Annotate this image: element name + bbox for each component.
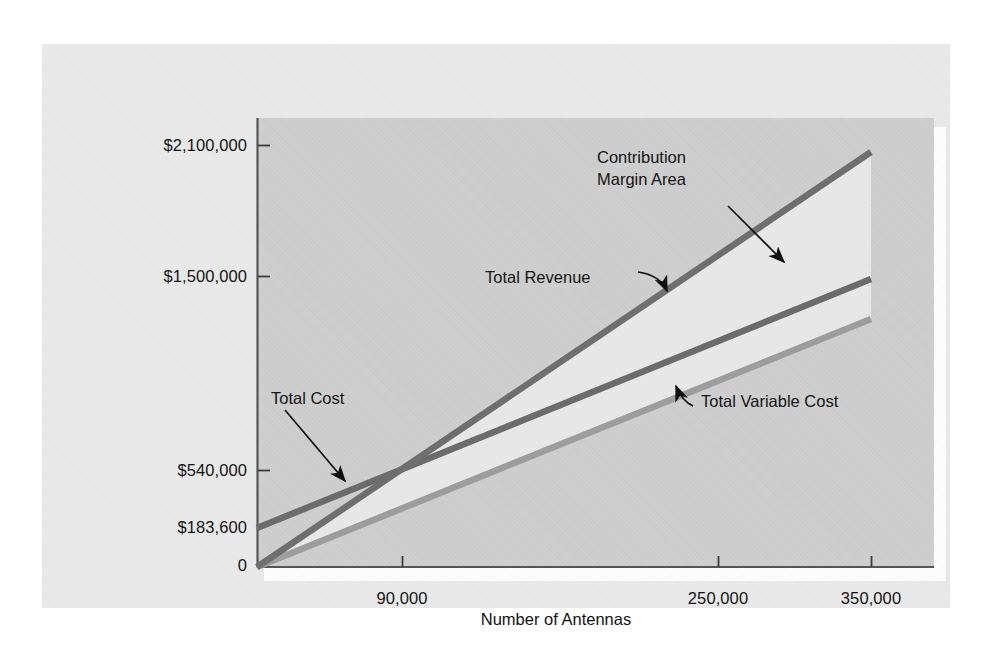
x-tick-label-250000: 250,000	[658, 589, 778, 608]
y-tick-label-183600: $183,600	[97, 518, 247, 537]
annotation-total-cost: Total Cost	[271, 388, 344, 410]
annotation-total-variable-cost: Total Variable Cost	[701, 391, 838, 413]
y-tick-label-2100000: $2,100,000	[97, 136, 247, 155]
x-tick-label-90000: 90,000	[342, 589, 462, 608]
x-tick-label-350000: 350,000	[811, 589, 931, 608]
annotation-contribution-margin-area-line2: Margin Area	[597, 169, 686, 191]
x-axis-title: Number of Antennas	[481, 610, 631, 628]
arrow-total-cost	[285, 410, 345, 481]
arrow-total-revenue	[638, 272, 667, 291]
figure-card: $2,100,000 $1,500,000 $540,000 $183,600 …	[42, 44, 950, 608]
y-tick-label-540000: $540,000	[97, 461, 247, 480]
y-tick-label-0: 0	[97, 556, 247, 575]
x-axis-title-wrapper: Number of Antennas	[42, 610, 992, 629]
annotation-contribution-margin-area-line1: Contribution	[597, 147, 686, 169]
y-tick-label-1500000: $1,500,000	[97, 267, 247, 286]
annotation-contribution-margin-area: Contribution Margin Area	[597, 147, 686, 191]
annotation-total-revenue: Total Revenue	[485, 267, 591, 289]
